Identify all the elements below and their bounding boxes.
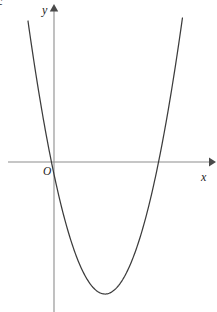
parabola-curve <box>28 18 182 294</box>
origin-label: O <box>43 165 52 177</box>
y-axis-label: y <box>41 3 48 17</box>
x-axis-label: x <box>200 170 207 184</box>
figure-canvas: c y x O <box>0 0 217 312</box>
y-axis-arrowhead <box>50 4 58 12</box>
parabola-graph: y x O <box>0 0 217 312</box>
x-axis-arrowhead <box>209 158 216 167</box>
